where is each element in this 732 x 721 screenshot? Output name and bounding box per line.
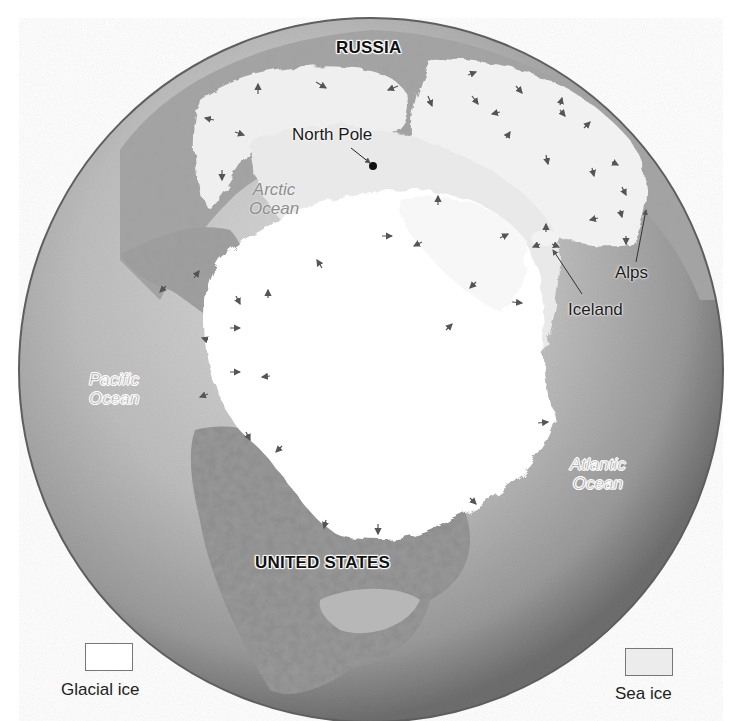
label-arctic-ocean: Arctic Ocean xyxy=(249,180,299,218)
label-united-states: UNITED STATES xyxy=(255,554,390,571)
label-arctic-ocean-line2: Ocean xyxy=(249,199,299,218)
legend-label-glacial-ice: Glacial ice xyxy=(61,680,139,700)
label-iceland: Iceland xyxy=(568,301,623,318)
iceland-island xyxy=(531,230,559,246)
label-atlantic-ocean-line2: Ocean xyxy=(570,474,626,493)
label-north-pole: North Pole xyxy=(292,126,372,143)
label-pacific-ocean: Pacific Ocean xyxy=(89,370,139,408)
label-pacific-ocean-line1: Pacific xyxy=(89,370,139,389)
legend-label-sea-ice: Sea ice xyxy=(615,684,672,704)
globe-map xyxy=(0,0,732,721)
label-arctic-ocean-line1: Arctic xyxy=(249,180,299,199)
label-pacific-ocean-line2: Ocean xyxy=(89,389,139,408)
legend-swatch-glacial-ice xyxy=(85,643,133,671)
legend-swatch-sea-ice xyxy=(625,648,673,676)
label-alps: Alps xyxy=(615,264,648,281)
label-russia: RUSSIA xyxy=(336,39,401,56)
label-atlantic-ocean-line1: Atlantic xyxy=(570,455,626,474)
label-atlantic-ocean: Atlantic Ocean xyxy=(570,455,626,493)
north-pole-marker xyxy=(369,162,377,170)
